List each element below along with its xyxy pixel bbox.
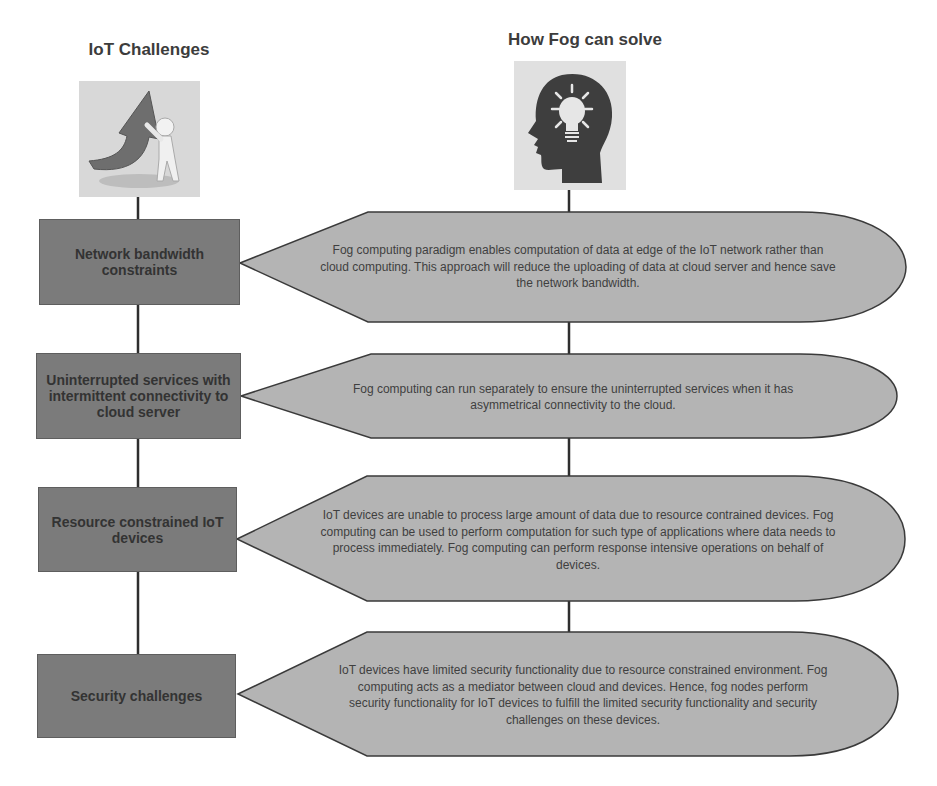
challenge-box-uninterrupted-services: Uninterrupted services with intermittent… [36, 353, 241, 439]
person-pushing-arrow-icon [79, 81, 200, 197]
challenge-box-network-bandwidth: Network bandwidth constraints [39, 219, 240, 305]
solution-text-security: IoT devices have limited security functi… [338, 660, 828, 730]
solution-text-resource-constrained: IoT devices are unable to process large … [313, 505, 843, 575]
challenge-box-resource-constrained: Resource constrained IoT devices [38, 487, 237, 572]
solution-text-network-bandwidth: Fog computing paradigm enables computati… [318, 237, 838, 297]
head-lightbulb-icon [514, 61, 626, 190]
solution-text-uninterrupted-services: Fog computing can run separately to ensu… [328, 378, 818, 416]
challenge-box-security: Security challenges [37, 654, 236, 738]
